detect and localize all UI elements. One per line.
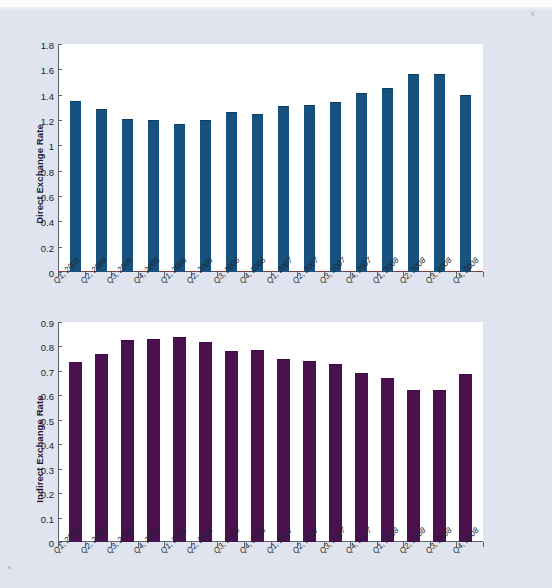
- y-tick-label: 0.8: [41, 167, 58, 178]
- bar: [381, 378, 394, 542]
- bar: [69, 362, 82, 542]
- page-top-margin: [0, 0, 552, 7]
- bar-cell: [323, 44, 349, 272]
- y-tick-direct: 0.8: [41, 162, 58, 180]
- y-tick-label: 1: [49, 141, 58, 152]
- bar: [356, 93, 367, 272]
- bar-cell: [88, 44, 114, 272]
- x-label-cell: Q3, 2007: [324, 547, 351, 588]
- y-tick-label: 0.7: [41, 367, 58, 378]
- bar: [304, 105, 315, 272]
- y-tick-label: 0.3: [41, 465, 58, 476]
- x-label-cell: Q2, 2006: [191, 547, 218, 588]
- bar-cell: [62, 322, 88, 542]
- bar: [329, 364, 342, 542]
- y-tick-indirect: 0.6: [41, 386, 58, 404]
- bar: [174, 124, 185, 272]
- scanned-page: Direct Exchange Rate 1.81.61.41.210.80.6…: [0, 0, 552, 588]
- bar: [459, 374, 472, 542]
- bar-cell: [218, 44, 244, 272]
- bar: [251, 350, 264, 542]
- y-tick-direct: 1.6: [41, 60, 58, 78]
- bar-cell: [323, 322, 349, 542]
- bar-cell: [166, 44, 192, 272]
- y-tick-indirect: 0.5: [41, 411, 58, 429]
- bar-cell: [401, 44, 427, 272]
- bar-cell: [244, 44, 270, 272]
- bar-cell: [271, 44, 297, 272]
- y-tick-label: 0.4: [41, 440, 58, 451]
- bar: [433, 390, 446, 542]
- bar-cell: [218, 322, 244, 542]
- y-tick-label: 0.2: [41, 243, 58, 254]
- bar: [407, 390, 420, 542]
- y-tick-direct: 0.6: [41, 187, 58, 205]
- bar: [121, 340, 134, 542]
- bar-cell: [427, 44, 453, 272]
- bar-cell: [271, 322, 297, 542]
- x-label-cell: Q4, 2006: [244, 547, 271, 588]
- bar-cell: [349, 44, 375, 272]
- bar-cell: [140, 44, 166, 272]
- bar-cell: [297, 322, 323, 542]
- y-tick-label: 0.5: [41, 416, 58, 427]
- y-tick-indirect: 0.1: [41, 509, 58, 527]
- bar-cell: [401, 322, 427, 542]
- bar-series-indirect: [58, 322, 483, 542]
- bar-cell: [62, 44, 88, 272]
- y-tick-label: 0.6: [41, 192, 58, 203]
- y-tick-label: 1.2: [41, 116, 58, 127]
- y-tick-label: 0.6: [41, 391, 58, 402]
- y-tick-indirect: 0.4: [41, 435, 58, 453]
- x-label-cell: Q1, 2008: [377, 547, 404, 588]
- bar-cell: [88, 322, 114, 542]
- bar: [434, 74, 445, 272]
- x-label-cell: Q1, 2007: [271, 547, 298, 588]
- x-label-cell: Q1, 2005: [58, 547, 85, 588]
- y-tick-label: 1.4: [41, 91, 58, 102]
- y-tick-label: 1.8: [41, 40, 58, 51]
- bar: [95, 354, 108, 542]
- y-tick-label: 1.6: [41, 65, 58, 76]
- bar-cell: [244, 322, 270, 542]
- bar-cell: [114, 44, 140, 272]
- x-label-cell: Q2, 2008: [403, 547, 430, 588]
- plot-area-direct: 1.81.61.41.210.80.60.40.20: [58, 44, 483, 272]
- bar: [147, 339, 160, 542]
- chart-direct-exchange-rate: Direct Exchange Rate 1.81.61.41.210.80.6…: [0, 34, 552, 314]
- bar: [226, 112, 237, 272]
- bar: [330, 102, 341, 272]
- bar-cell: [297, 44, 323, 272]
- page-top-gradient: [0, 7, 552, 10]
- bar: [173, 337, 186, 542]
- y-tick-label: 0.1: [41, 514, 58, 525]
- plot-area-indirect: 0.90.80.70.60.50.40.30.20.10: [58, 322, 483, 542]
- x-label-cell: Q3, 2005: [111, 547, 138, 588]
- y-tick-indirect: 0.7: [41, 362, 58, 380]
- y-tick-indirect: 0.9: [41, 313, 58, 331]
- x-tick-mark: [483, 542, 484, 547]
- scan-artifact-top-right: [531, 12, 534, 16]
- y-tick-indirect: 0.8: [41, 337, 58, 355]
- bar-cell: [166, 322, 192, 542]
- x-label-cell: Q4, 2005: [138, 547, 165, 588]
- x-label-cell: Q3, 2006: [217, 547, 244, 588]
- y-tick-indirect: 0.2: [41, 484, 58, 502]
- y-tick-direct: 1.4: [41, 86, 58, 104]
- x-tick-mark: [483, 272, 484, 277]
- bar: [96, 109, 107, 272]
- x-label-cell: Q2, 2005: [85, 547, 112, 588]
- bar-series-direct: [58, 44, 483, 272]
- x-label-cell: Q1, 2006: [164, 547, 191, 588]
- x-label-cell: Q3, 2008: [430, 547, 457, 588]
- y-tick-label: 0.4: [41, 217, 58, 228]
- bar: [148, 120, 159, 272]
- bar: [355, 373, 368, 542]
- bar: [252, 114, 263, 272]
- y-tick-direct: 0.4: [41, 212, 58, 230]
- bar: [460, 95, 471, 272]
- bar-cell: [427, 322, 453, 542]
- bar: [70, 101, 81, 272]
- y-tick-direct: 1.2: [41, 111, 58, 129]
- y-tick-indirect: 0.3: [41, 460, 58, 478]
